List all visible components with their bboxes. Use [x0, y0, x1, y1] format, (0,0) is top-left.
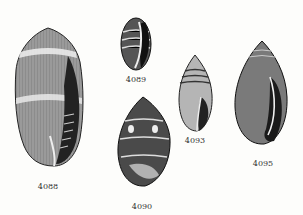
shell-illustration-4088 [10, 26, 86, 168]
figure-label-4088: 4088 [38, 182, 58, 191]
figure-label-4090: 4090 [132, 202, 152, 211]
shell-illustration-4095 [232, 39, 290, 147]
shell-illustration-4093 [177, 53, 215, 133]
figure-label-4095: 4095 [253, 159, 273, 168]
shell-illustration-4089 [119, 16, 155, 72]
shell-illustration-4090 [115, 95, 173, 189]
figure-label-4093: 4093 [185, 136, 205, 145]
figure-label-4089: 4089 [126, 75, 146, 84]
shell-plate: 4088 4089 4090 4093 4095 [0, 0, 303, 215]
